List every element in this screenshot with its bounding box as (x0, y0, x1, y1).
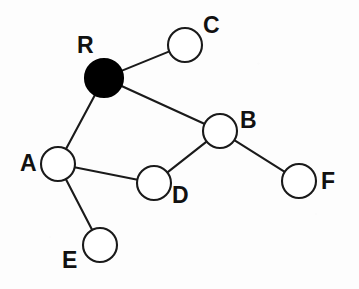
graph-svg (0, 0, 359, 289)
edge-r-c (120, 51, 170, 72)
node-r[interactable] (85, 59, 123, 97)
node-label-c: C (203, 14, 220, 37)
edge-b-f (233, 139, 286, 172)
node-e[interactable] (83, 228, 117, 262)
edge-a-d (73, 167, 139, 180)
edge-r-b (120, 85, 206, 124)
node-f[interactable] (282, 164, 316, 198)
node-c[interactable] (168, 28, 202, 62)
edge-d-b (166, 141, 208, 174)
node-label-e: E (62, 249, 77, 272)
diagram-canvas: RCBADFE (0, 0, 359, 289)
node-b[interactable] (203, 114, 237, 148)
node-label-a: A (20, 152, 37, 175)
node-label-b: B (240, 109, 257, 132)
edge-r-a (65, 93, 95, 150)
node-d[interactable] (137, 166, 171, 200)
node-label-d: D (172, 184, 189, 207)
node-label-f: F (321, 170, 335, 193)
nodes-group (41, 28, 316, 262)
node-label-r: R (77, 34, 94, 57)
edge-a-e (65, 178, 93, 231)
node-a[interactable] (41, 147, 75, 181)
